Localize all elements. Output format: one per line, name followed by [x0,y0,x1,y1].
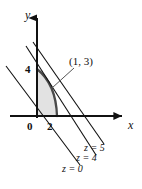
tick-label-y-4: 4 [25,63,31,75]
figure-canvas: y x 0 2 4 (1, 3) z = 5 z = 4 z = 0 [0,0,142,189]
x-axis-label: x [127,118,134,132]
y-axis-label: y [24,8,31,22]
vertex-label: (1, 3) [69,55,93,68]
math-figure: y x 0 2 4 (1, 3) z = 5 z = 4 z = 0 [0,0,142,189]
tick-label-x-2: 2 [47,120,53,132]
level-line-label-z-4: z = 4 [75,152,97,163]
level-line-label-z-0: z = 0 [61,163,83,174]
tick-label-origin: 0 [27,120,33,132]
